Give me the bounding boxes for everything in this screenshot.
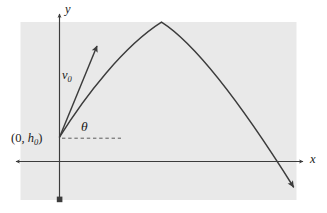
plot-background-panel (21, 22, 297, 200)
launch-angle-label: θ (81, 119, 88, 134)
projectile-motion-figure: y x θ v0 (0, h0) (0, 0, 327, 213)
y-axis-label: y (63, 2, 71, 16)
x-axis-label: x (309, 152, 316, 166)
launch-point-label-close: ) (38, 131, 42, 145)
launch-point-label-open: (0, (11, 131, 28, 145)
launch-point-label: (0, h0) (11, 131, 42, 147)
y-axis-bottom-terminal (57, 197, 63, 203)
